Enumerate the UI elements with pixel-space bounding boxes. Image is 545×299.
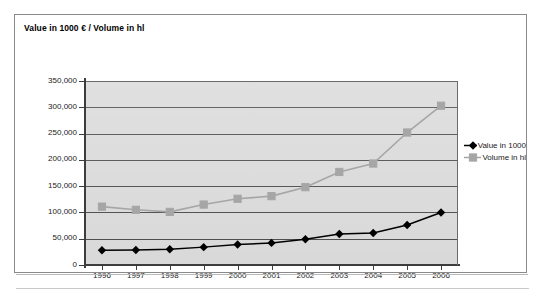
data-point-marker-diamond [369, 229, 377, 237]
series-value [98, 208, 445, 254]
y-axis-tick [79, 134, 85, 135]
x-axis-tick [407, 265, 408, 270]
chart-legend: Value in 1000Volume in hl [464, 139, 526, 163]
series-volume [98, 102, 444, 215]
legend-marker-icon [464, 152, 481, 163]
legend-item-value[interactable]: Value in 1000 [464, 139, 526, 151]
legend-item-label: Value in 1000 [478, 141, 526, 150]
x-axis-tick [272, 265, 273, 270]
y-axis-tick [79, 186, 85, 187]
data-point-marker-diamond [335, 230, 343, 238]
x-axis-tick [441, 265, 442, 270]
data-point-marker-diamond [199, 243, 207, 251]
y-axis-tick [79, 81, 85, 82]
figure-shadow [16, 274, 528, 275]
data-point-marker-square [336, 168, 343, 175]
legend-marker-icon [464, 140, 477, 151]
y-axis-tick [79, 265, 85, 266]
data-point-marker-diamond [267, 239, 275, 247]
y-axis-tick [79, 239, 85, 240]
bottom-horizontal-rule [16, 288, 529, 289]
data-point-marker-square [234, 195, 241, 202]
x-axis-tick [305, 265, 306, 270]
data-point-marker-diamond [233, 240, 241, 248]
data-point-marker-square [98, 203, 105, 210]
data-point-marker-square [268, 193, 275, 200]
data-point-marker-diamond [166, 245, 174, 253]
data-point-marker-square [166, 208, 173, 215]
legend-item-volume[interactable]: Volume in hl [464, 151, 526, 163]
x-axis-tick [373, 265, 374, 270]
x-axis-tick [102, 265, 103, 270]
x-axis-tick [136, 265, 137, 270]
x-axis-tick [170, 265, 171, 270]
y-axis-tick [79, 107, 85, 108]
data-point-marker-square [132, 206, 139, 213]
data-point-marker-square [370, 160, 377, 167]
series-layer [15, 15, 528, 274]
data-point-marker-square [302, 184, 309, 191]
x-axis-tick [339, 265, 340, 270]
chart-figure-frame: Value in 1000 € / Volume in hl 050,00010… [14, 14, 527, 273]
data-point-marker-diamond [98, 246, 106, 254]
y-axis-tick [79, 212, 85, 213]
data-point-marker-square [404, 129, 411, 136]
data-point-marker-diamond [403, 221, 411, 229]
data-point-marker-square [200, 201, 207, 208]
data-point-marker-square [437, 102, 444, 109]
data-point-marker-diamond [132, 246, 140, 254]
data-point-marker-square [469, 153, 476, 160]
data-point-marker-diamond [469, 141, 477, 149]
legend-item-label: Volume in hl [482, 153, 526, 162]
y-axis-tick [79, 160, 85, 161]
data-point-marker-diamond [301, 235, 309, 243]
x-axis-tick [238, 265, 239, 270]
data-point-marker-diamond [437, 208, 445, 216]
x-axis-tick [204, 265, 205, 270]
